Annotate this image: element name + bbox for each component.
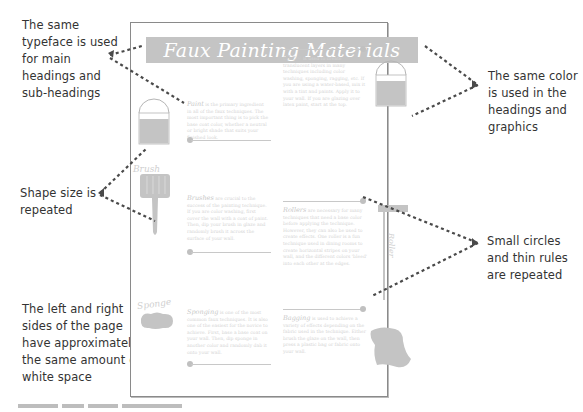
section-sponging: Sponging is one of the most common faux …	[187, 309, 269, 356]
callout-shape-size: Shape size is repeated	[20, 185, 96, 219]
callout-typeface: The same typeface is used for main headi…	[22, 17, 118, 102]
section-body: is one of the most common faux technique…	[187, 310, 268, 355]
callout-circles-rules: Small circles and thin rules are repeate…	[487, 233, 568, 284]
paint-bucket-graphic	[136, 95, 172, 145]
thin-rule	[191, 364, 271, 365]
callout-white-space: The left and right sides of the page hav…	[22, 301, 140, 386]
thin-rule	[283, 49, 363, 50]
section-heading: Rollers	[283, 206, 306, 214]
figure-caption	[18, 404, 518, 412]
section-heading: Brushes	[187, 194, 214, 202]
section-body: are crucial to the success of the painti…	[187, 196, 268, 241]
bag-graphic	[367, 325, 413, 371]
section-body: is used to achieve a variety of effects …	[283, 316, 366, 354]
sponge-label: Sponge	[136, 297, 171, 312]
roller-label: Roller	[387, 233, 396, 258]
section-glaze: Glaze is used to create translucent laye…	[283, 55, 367, 109]
section-heading: Paint	[187, 100, 204, 108]
section-brushes: Brushes are crucial to the success of th…	[187, 195, 269, 242]
section-body: is the primary ingredient in all of the …	[187, 102, 268, 140]
section-heading: Bagging	[283, 314, 310, 322]
section-bagging: Bagging is used to achieve a variety of …	[283, 315, 367, 356]
circle-marker	[360, 46, 366, 52]
thin-rule	[191, 140, 271, 141]
paint-bucket-graphic	[373, 57, 409, 107]
thin-rule	[283, 201, 363, 202]
section-body: are necessary for many techniques that n…	[283, 208, 367, 266]
section-heading: Sponging	[187, 308, 218, 316]
circle-marker	[360, 306, 366, 312]
section-rollers: Rollers are necessary for many technique…	[283, 207, 369, 267]
sample-page: Faux Painting Materials Paint is the pri…	[130, 22, 388, 397]
brush-graphic	[137, 174, 173, 244]
section-heading: Glaze	[283, 54, 301, 62]
sponge-graphic	[139, 311, 175, 331]
callout-color: The same color is used in the headings a…	[488, 68, 578, 136]
thin-rule	[191, 252, 271, 253]
section-paint: Paint is the primary ingredient in all o…	[187, 101, 269, 142]
section-body: is used to create translucent layers in …	[283, 56, 365, 107]
brush-label: Brush	[133, 164, 160, 174]
thin-rule	[283, 309, 363, 310]
